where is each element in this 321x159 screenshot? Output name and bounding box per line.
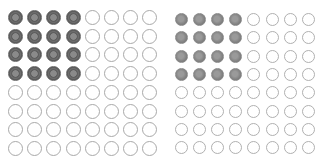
filled-dot (66, 66, 81, 81)
empty-dot (211, 123, 224, 136)
empty-dot (46, 122, 61, 137)
filled-dot (46, 47, 61, 62)
empty-dot (175, 123, 188, 136)
empty-dot (193, 105, 206, 118)
empty-dot (85, 47, 100, 62)
empty-dot (284, 123, 297, 136)
empty-dot (302, 105, 315, 118)
empty-dot (266, 50, 279, 63)
empty-dot (104, 104, 119, 119)
empty-dot (123, 141, 138, 156)
empty-dot (142, 66, 157, 81)
empty-dot (66, 85, 81, 100)
empty-dot (284, 141, 297, 154)
filled-dot (27, 29, 42, 44)
filled-dot (46, 10, 61, 25)
empty-dot (8, 141, 23, 156)
empty-dot (284, 68, 297, 81)
empty-dot (229, 105, 242, 118)
empty-dot (193, 141, 206, 154)
filled-dot (229, 68, 242, 81)
empty-dot (142, 47, 157, 62)
filled-dot (27, 10, 42, 25)
empty-dot (302, 50, 315, 63)
empty-dot (85, 85, 100, 100)
empty-dot (142, 85, 157, 100)
empty-dot (142, 141, 157, 156)
empty-dot (85, 10, 100, 25)
filled-dot (175, 31, 188, 44)
empty-dot (142, 104, 157, 119)
empty-dot (266, 105, 279, 118)
empty-dot (142, 122, 157, 137)
empty-dot (302, 68, 315, 81)
empty-dot (85, 29, 100, 44)
empty-dot (123, 104, 138, 119)
filled-dot (211, 31, 224, 44)
filled-dot (193, 13, 206, 26)
empty-dot (123, 10, 138, 25)
filled-dot (46, 29, 61, 44)
filled-dot (66, 10, 81, 25)
empty-dot (8, 122, 23, 137)
empty-dot (123, 85, 138, 100)
empty-dot (46, 85, 61, 100)
filled-dot (193, 31, 206, 44)
empty-dot (302, 141, 315, 154)
empty-dot (247, 31, 260, 44)
empty-dot (85, 141, 100, 156)
empty-dot (123, 47, 138, 62)
empty-dot (247, 86, 260, 99)
filled-dot (229, 50, 242, 63)
empty-dot (247, 141, 260, 154)
filled-dot (175, 68, 188, 81)
empty-dot (85, 122, 100, 137)
empty-dot (8, 85, 23, 100)
empty-dot (229, 141, 242, 154)
empty-dot (302, 123, 315, 136)
empty-dot (104, 29, 119, 44)
empty-dot (27, 85, 42, 100)
empty-dot (229, 123, 242, 136)
filled-dot (8, 10, 23, 25)
filled-dot (27, 47, 42, 62)
empty-dot (211, 105, 224, 118)
filled-dot (175, 50, 188, 63)
empty-dot (211, 141, 224, 154)
empty-dot (266, 68, 279, 81)
empty-dot (284, 86, 297, 99)
empty-dot (27, 141, 42, 156)
empty-dot (142, 10, 157, 25)
empty-dot (266, 13, 279, 26)
filled-dot (229, 13, 242, 26)
empty-dot (123, 29, 138, 44)
filled-dot (193, 50, 206, 63)
filled-dot (211, 68, 224, 81)
empty-dot (193, 123, 206, 136)
empty-dot (46, 141, 61, 156)
filled-dot (8, 66, 23, 81)
filled-dot (46, 66, 61, 81)
empty-dot (302, 31, 315, 44)
empty-dot (66, 141, 81, 156)
empty-dot (266, 86, 279, 99)
empty-dot (104, 66, 119, 81)
filled-dot (8, 47, 23, 62)
empty-dot (104, 141, 119, 156)
empty-dot (27, 104, 42, 119)
empty-dot (247, 105, 260, 118)
empty-dot (284, 50, 297, 63)
empty-dot (46, 104, 61, 119)
filled-dot (66, 29, 81, 44)
empty-dot (266, 141, 279, 154)
empty-dot (193, 86, 206, 99)
empty-dot (175, 105, 188, 118)
empty-dot (284, 31, 297, 44)
empty-dot (8, 104, 23, 119)
empty-dot (123, 66, 138, 81)
empty-dot (229, 86, 242, 99)
empty-dot (247, 123, 260, 136)
empty-dot (175, 86, 188, 99)
empty-dot (104, 85, 119, 100)
empty-dot (104, 122, 119, 137)
